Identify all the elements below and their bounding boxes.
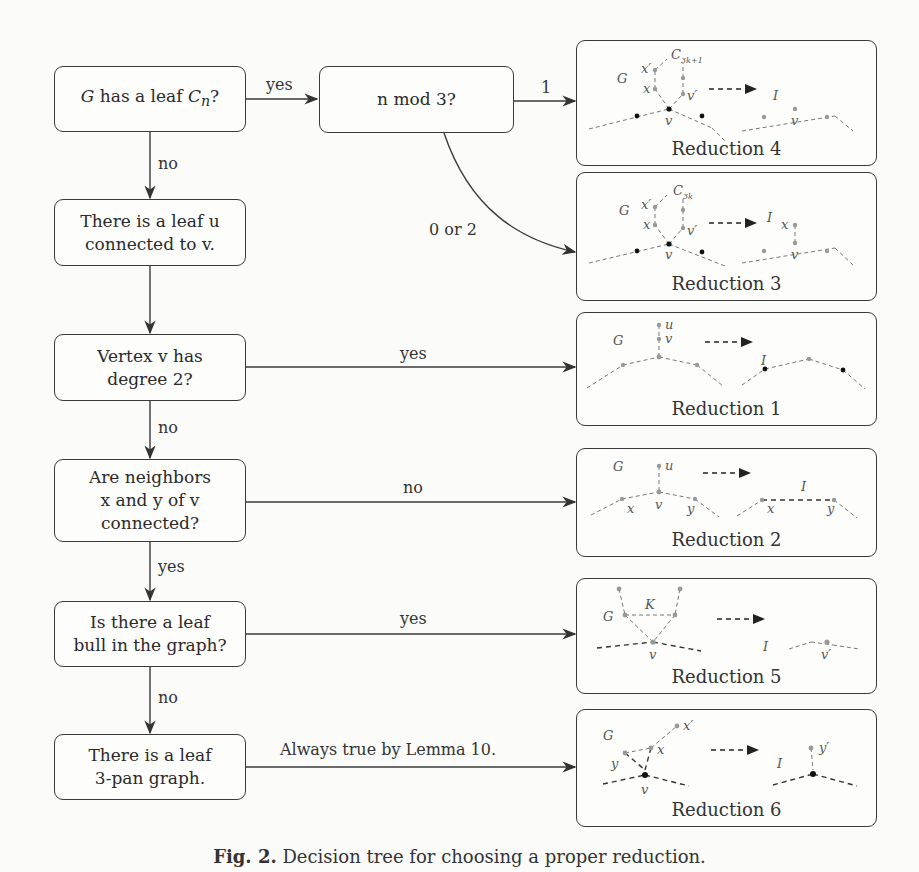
edge-label-0-or-2: 0 or 2 bbox=[429, 220, 477, 239]
node-text-end: ? bbox=[210, 86, 219, 106]
node-line: Is there a leaf bbox=[73, 611, 226, 634]
reduction-label: Reduction 6 bbox=[577, 799, 876, 820]
svg-text:I: I bbox=[800, 479, 807, 494]
svg-text:v: v bbox=[665, 113, 673, 128]
edge-label-yes: yes bbox=[158, 557, 185, 576]
edge-label-no: no bbox=[158, 154, 178, 173]
svg-text:G: G bbox=[613, 333, 623, 348]
svg-text:x: x bbox=[627, 501, 635, 516]
reduction-label: Reduction 4 bbox=[577, 138, 876, 159]
decision-vertex-degree-2: Vertex v hasdegree 2? bbox=[54, 334, 246, 401]
reduction-1-panel: GuvI Reduction 1 bbox=[576, 312, 877, 426]
node-line: There is a leaf u bbox=[80, 210, 219, 233]
svg-text:C: C bbox=[673, 183, 683, 198]
edge-label-yes: yes bbox=[266, 75, 293, 94]
node-line: Vertex v has bbox=[97, 345, 203, 368]
svg-text:G: G bbox=[613, 459, 623, 474]
reduction-label: Reduction 5 bbox=[577, 666, 876, 687]
svg-text:u: u bbox=[665, 317, 673, 332]
decision-has-leaf-cycle: G has a leaf Cn? bbox=[54, 66, 246, 132]
reduction-3-panel: Gx′xC3kv′vIxv Reduction 3 bbox=[576, 172, 877, 301]
svg-text:x′: x′ bbox=[641, 197, 651, 212]
node-line: Are neighbors bbox=[89, 466, 211, 489]
node-line: connected to v. bbox=[80, 233, 219, 256]
edge-label-yes: yes bbox=[400, 344, 427, 363]
svg-text:C: C bbox=[671, 47, 681, 62]
svg-text:y: y bbox=[826, 501, 835, 516]
svg-text:y′: y′ bbox=[818, 740, 829, 755]
decision-n-mod-3: n mod 3? bbox=[319, 66, 514, 133]
svg-text:I: I bbox=[760, 353, 767, 368]
svg-text:v: v bbox=[791, 247, 799, 262]
svg-text:y: y bbox=[610, 756, 619, 771]
node-line: degree 2? bbox=[97, 368, 203, 391]
caption-text: Decision tree for choosing a proper redu… bbox=[277, 846, 706, 867]
edge-label-1: 1 bbox=[541, 78, 551, 97]
svg-text:v′: v′ bbox=[687, 223, 697, 238]
reduction-label: Reduction 1 bbox=[577, 398, 876, 419]
caption-prefix: Fig. 2. bbox=[213, 846, 277, 867]
math-sub-n: n bbox=[201, 93, 210, 109]
svg-text:3k+1: 3k+1 bbox=[681, 56, 703, 65]
svg-text:I: I bbox=[772, 88, 779, 103]
decision-leaf-3-pan: There is a leaf3-pan graph. bbox=[54, 734, 246, 800]
svg-text:x′: x′ bbox=[641, 61, 651, 76]
svg-text:u: u bbox=[665, 458, 673, 473]
reduction-6-panel: Gx′xyvIy′ Reduction 6 bbox=[576, 709, 877, 827]
math-G: G bbox=[81, 86, 95, 106]
svg-text:x′: x′ bbox=[683, 718, 693, 733]
svg-text:v: v bbox=[665, 331, 673, 346]
svg-text:x: x bbox=[643, 217, 651, 232]
decision-neighbors-connected: Are neighborsx and y of vconnected? bbox=[54, 459, 246, 542]
svg-text:x: x bbox=[643, 81, 651, 96]
svg-text:G: G bbox=[617, 71, 627, 86]
svg-text:x: x bbox=[781, 217, 789, 232]
node-line: There is a leaf bbox=[89, 744, 212, 767]
node-line: x and y of v bbox=[89, 489, 211, 512]
reduction-5-panel: GKvIv′ Reduction 5 bbox=[576, 578, 877, 694]
svg-text:v: v bbox=[791, 113, 799, 128]
node-line: connected? bbox=[89, 512, 211, 535]
edge-label-lemma: Always true by Lemma 10. bbox=[280, 740, 496, 759]
decision-leaf-bull: Is there a leafbull in the graph? bbox=[54, 601, 246, 667]
reduction-4-panel: Gx′xC3k+1v′vIv Reduction 4 bbox=[576, 40, 877, 166]
svg-text:I: I bbox=[762, 639, 769, 654]
reduction-2-panel: GuvxyIxy Reduction 2 bbox=[576, 448, 877, 557]
reduction-label: Reduction 2 bbox=[577, 529, 876, 550]
svg-text:v: v bbox=[655, 497, 663, 512]
svg-text:I: I bbox=[766, 210, 773, 225]
svg-text:G: G bbox=[619, 203, 629, 218]
svg-text:v: v bbox=[665, 247, 673, 262]
node-text: n mod 3? bbox=[377, 88, 456, 111]
svg-text:v: v bbox=[649, 647, 657, 662]
svg-text:x: x bbox=[767, 501, 775, 516]
edge-label-yes: yes bbox=[400, 609, 427, 628]
decision-leaf-u-connected: There is a leaf uconnected to v. bbox=[54, 199, 246, 266]
svg-text:y: y bbox=[686, 501, 695, 516]
svg-text:v′: v′ bbox=[821, 647, 831, 662]
svg-text:K: K bbox=[644, 597, 656, 612]
node-line: bull in the graph? bbox=[73, 634, 226, 657]
svg-text:G: G bbox=[603, 728, 613, 743]
edge-label-no: no bbox=[158, 688, 178, 707]
svg-text:G: G bbox=[603, 609, 613, 624]
node-text: has a leaf bbox=[94, 86, 187, 106]
edge-label-no: no bbox=[158, 418, 178, 437]
svg-text:x: x bbox=[657, 742, 665, 757]
figure-caption: Fig. 2. Decision tree for choosing a pro… bbox=[0, 846, 919, 867]
svg-text:I: I bbox=[776, 756, 783, 771]
svg-text:v′: v′ bbox=[687, 88, 697, 103]
edge-label-no: no bbox=[403, 478, 423, 497]
svg-text:3k: 3k bbox=[683, 192, 693, 201]
math-C: C bbox=[188, 86, 201, 106]
node-line: 3-pan graph. bbox=[89, 767, 212, 790]
reduction-label: Reduction 3 bbox=[577, 273, 876, 294]
svg-text:v: v bbox=[641, 782, 649, 797]
